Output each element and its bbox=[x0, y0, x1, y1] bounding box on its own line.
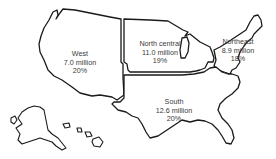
hawaii-island-3 bbox=[85, 132, 92, 137]
label-south: South 12.6 million 20% bbox=[156, 98, 192, 124]
us-regions-map bbox=[0, 0, 276, 159]
label-west: West 7.0 million 20% bbox=[64, 50, 96, 76]
alaska-inset bbox=[16, 106, 66, 150]
alaska-island bbox=[11, 116, 17, 124]
region-percent: 19% bbox=[139, 57, 180, 66]
hawaii-island-2 bbox=[77, 128, 82, 132]
region-percent: 20% bbox=[156, 115, 192, 124]
hawaii-island-1 bbox=[63, 123, 70, 128]
hawaii-island-4 bbox=[92, 137, 103, 147]
region-percent: 20% bbox=[64, 67, 96, 76]
label-northeast: Northeast 8.9 million 18% bbox=[222, 38, 254, 64]
region-percent: 18% bbox=[222, 55, 254, 64]
label-north-central: North central 11.0 million 19% bbox=[139, 40, 180, 66]
